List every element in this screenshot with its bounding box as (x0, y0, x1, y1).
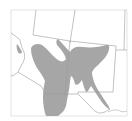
border-new-mexico-texas (113, 46, 116, 92)
range-map (0, 0, 132, 121)
species-range (17, 39, 110, 116)
range-area-main (31, 39, 110, 116)
border-arizona-california (11, 33, 25, 76)
coastline-bottom-right (108, 110, 127, 112)
border-nevada-utah (33, 10, 36, 35)
border-four-corners-latitude (33, 35, 116, 46)
border-colorado-kansas (124, 10, 125, 50)
range-map-svg (0, 0, 132, 121)
border-new-mexico-mexico (65, 92, 113, 94)
border-utah-colorado (70, 10, 75, 43)
